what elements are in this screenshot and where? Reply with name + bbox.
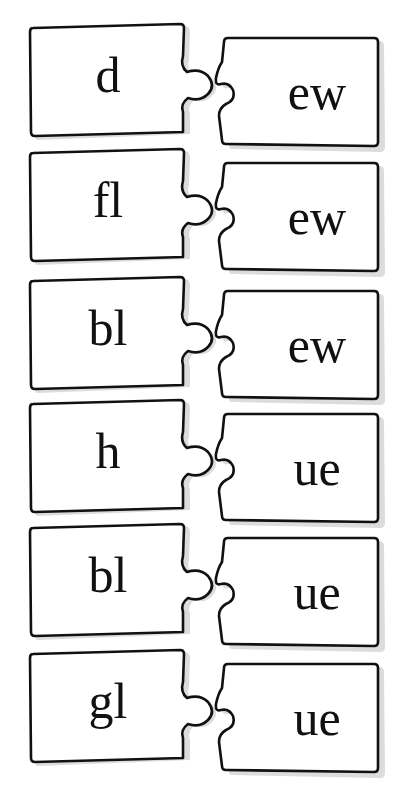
puzzle-pair-2: fl ew (0, 147, 405, 272)
puzzle-pair-3: bl ew (0, 275, 405, 400)
puzzle-pair-5: bl ue (0, 522, 405, 647)
rime-label: ue (262, 567, 372, 617)
puzzle-worksheet: d ew fl ew bl ew (0, 0, 405, 798)
rime-label: ew (262, 320, 372, 370)
onset-label: bl (48, 550, 168, 600)
rime-label: ew (262, 192, 372, 242)
rime-label: ew (262, 67, 372, 117)
onset-label: d (48, 50, 168, 100)
onset-label: gl (48, 676, 168, 726)
puzzle-pair-4: h ue (0, 398, 405, 523)
onset-label: h (48, 426, 168, 476)
rime-label: ue (262, 443, 372, 493)
puzzle-pair-6: gl ue (0, 648, 405, 773)
onset-label: fl (48, 175, 168, 225)
rime-label: ue (262, 693, 372, 743)
puzzle-pair-1: d ew (0, 22, 405, 147)
onset-label: bl (48, 303, 168, 353)
